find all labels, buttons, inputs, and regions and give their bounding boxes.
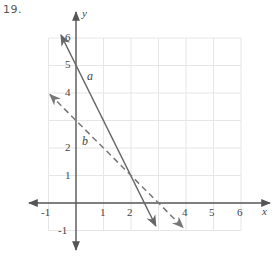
y-tick-label: 2 — [65, 141, 71, 153]
line-a — [61, 35, 156, 226]
y-axis-label: y — [81, 7, 87, 19]
line-b-label: b — [82, 134, 88, 148]
y-tick-label: 5 — [65, 58, 71, 70]
y-tick-label: 1 — [65, 169, 71, 181]
x-tick-label: 5 — [209, 206, 215, 218]
x-tick-label: 6 — [237, 206, 243, 218]
x-axis-label: x — [261, 205, 267, 217]
x-tick-label: 1 — [100, 206, 106, 218]
coordinate-plane: x y -1 1 2 4 5 6 6 5 4 2 1 -1 a b — [0, 0, 277, 257]
x-tick-label: 2 — [127, 206, 133, 218]
y-tick-label: 4 — [65, 86, 71, 98]
line-b — [50, 95, 183, 228]
graph-figure: 19. — [0, 0, 277, 257]
y-tick-label: -1 — [58, 224, 67, 236]
x-tick-label: 4 — [182, 206, 188, 218]
line-a-label: a — [87, 69, 93, 83]
y-tick-label: 6 — [65, 31, 71, 43]
x-tick-label: -1 — [41, 206, 50, 218]
problem-number: 19. — [3, 3, 22, 16]
